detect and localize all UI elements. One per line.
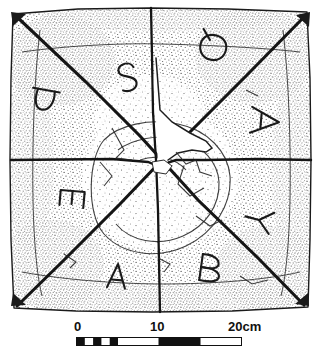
figure-container: 0 10 20cm [0, 0, 323, 350]
scale-tick-label-0: 0 [74, 320, 81, 333]
scale-bar: 0 10 20cm [0, 318, 323, 350]
scale-ruler-graphic [76, 337, 242, 346]
scale-tick-label-10: 10 [150, 320, 164, 333]
artifact-drawing [0, 0, 323, 320]
scale-tick-label-20cm: 20cm [228, 320, 261, 333]
